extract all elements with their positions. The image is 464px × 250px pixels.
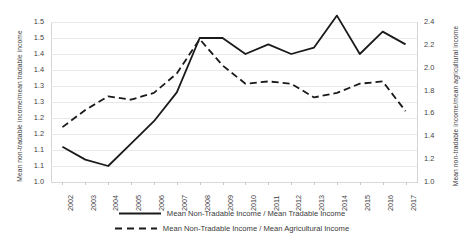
y-axis-left-tick-label: 1.5 <box>22 34 44 42</box>
y-axis-left-tick-label: 1.5 <box>22 18 44 26</box>
x-axis-tick-mark <box>383 182 384 185</box>
legend-item[interactable]: Mean Non-Tradable Income / Mean Tradable… <box>119 209 345 218</box>
legend-swatch-1 <box>119 209 161 218</box>
x-axis-tick-mark <box>85 182 86 185</box>
y-axis-left-tick-label: 1.3 <box>22 82 44 90</box>
x-axis-tick-mark <box>223 182 224 185</box>
y-axis-right-title: Mean non-tradable income/mean agricultur… <box>452 22 460 190</box>
y-axis-right-tick-label: 2.0 <box>424 64 434 72</box>
x-axis-tick-mark <box>62 182 63 185</box>
x-axis-tick-mark <box>245 182 246 185</box>
x-axis-tick-mark <box>406 182 407 185</box>
y-axis-right-tick-label: 1.4 <box>424 132 434 140</box>
x-axis-tick-mark <box>154 182 155 185</box>
y-axis-left-tick-label: 1.4 <box>22 66 44 74</box>
series-lines <box>51 22 417 182</box>
x-axis-tick-mark <box>177 182 178 185</box>
x-axis-tick-mark <box>314 182 315 185</box>
legend-swatch-2 <box>115 224 157 233</box>
y-axis-right-tick-label: 1.6 <box>424 109 434 117</box>
x-axis-tick-mark <box>291 182 292 185</box>
chart-container: Mean non-tradable income/mean tradable i… <box>0 0 464 250</box>
plot-area <box>51 22 417 182</box>
x-axis-tick-mark <box>131 182 132 185</box>
x-axis-tick-mark <box>360 182 361 185</box>
y-axis-right-tick-label: 2.4 <box>424 18 434 26</box>
y-axis-right-tick-label: 1.8 <box>424 87 434 95</box>
y-axis-left-tick-label: 1.1 <box>22 162 44 170</box>
y-axis-left-tick-label: 1.3 <box>22 98 44 106</box>
y-axis-left-tick-label: 1.2 <box>22 114 44 122</box>
y-axis-left-tick-label: 1.1 <box>22 146 44 154</box>
x-axis-tick-mark <box>337 182 338 185</box>
y-axis-left-tick-label: 1.2 <box>22 130 44 138</box>
gridline <box>51 182 417 183</box>
legend-label: Mean Non-Tradable Income / Mean Agricult… <box>163 224 349 233</box>
y-axis-right-tick-label: 1.0 <box>424 178 434 186</box>
y-axis-left-tick-label: 1.4 <box>22 50 44 58</box>
legend-label: Mean Non-Tradable Income / Mean Tradable… <box>167 209 345 218</box>
series-line-2 <box>62 39 405 127</box>
y-axis-right-spine <box>417 22 418 182</box>
legend-item[interactable]: Mean Non-Tradable Income / Mean Agricult… <box>115 224 349 233</box>
x-axis-tick-mark <box>108 182 109 185</box>
x-axis-tick-mark <box>200 182 201 185</box>
legend: Mean Non-Tradable Income / Mean Tradable… <box>0 209 464 233</box>
series-line-1 <box>62 16 405 166</box>
y-axis-right-tick-label: 1.2 <box>424 155 434 163</box>
y-axis-left-tick-label: 1.0 <box>22 178 44 186</box>
x-axis-tick-mark <box>268 182 269 185</box>
y-axis-right-tick-label: 2.2 <box>424 41 434 49</box>
